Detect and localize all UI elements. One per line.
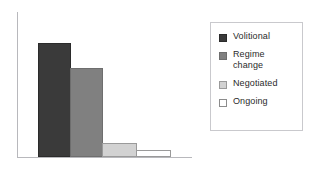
legend-swatch-icon [219,99,227,107]
legend-label: Regime change [233,49,265,71]
legend-swatch-icon [219,52,227,60]
bar-series [0,0,200,169]
chart-figure: Volitional Regime change Negotiated Ongo… [0,0,314,169]
legend-item-list: Volitional Regime change Negotiated Ongo… [219,31,298,114]
bar-ongoing [136,150,171,157]
plot-area [0,0,200,169]
legend-item-ongoing: Ongoing [219,96,298,107]
bar-regime-change [70,68,103,157]
legend-item-negotiated: Negotiated [219,78,298,89]
legend-label: Volitional [233,31,270,42]
legend-swatch-icon [219,34,227,42]
legend-label: Negotiated [233,78,278,89]
legend-label: Ongoing [233,96,268,107]
legend-swatch-icon [219,81,227,89]
chart-legend: Volitional Regime change Negotiated Ongo… [210,22,303,131]
bar-negotiated [102,143,137,157]
bar-volitional [38,43,71,157]
legend-item-volitional: Volitional [219,31,298,42]
legend-item-regime-change: Regime change [219,49,298,71]
